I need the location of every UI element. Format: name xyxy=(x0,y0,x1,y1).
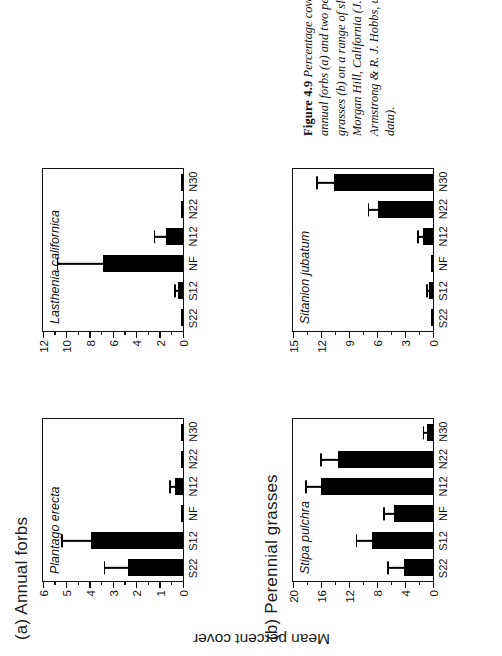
bar-zero-marker xyxy=(181,451,183,468)
y-tick-label: 3 xyxy=(400,340,412,346)
y-tick-major xyxy=(89,332,90,338)
x-axis: S22S12NFN12N22N30 xyxy=(187,418,199,582)
x-category-label: N12 xyxy=(437,473,449,500)
x-category-label: S12 xyxy=(187,527,199,554)
y-tick-label: 5 xyxy=(61,590,73,596)
bar-slot-n22 xyxy=(43,196,183,223)
y-tick-label: 16 xyxy=(316,590,328,603)
bar-slot-nf xyxy=(293,250,433,277)
chart-panel-sitanion-jubatum: Sitanion jubatum03691215S22S12NFN12N22N3… xyxy=(292,168,450,358)
bar xyxy=(404,559,433,576)
y-tick-minor xyxy=(101,582,102,585)
bar-slot-s22 xyxy=(293,304,433,331)
x-category-label: S22 xyxy=(437,555,449,582)
bar-zero-marker xyxy=(181,174,183,191)
x-category-label: S22 xyxy=(187,555,199,582)
x-category-label: NF xyxy=(437,500,449,527)
y-tick-minor xyxy=(124,332,125,335)
y-tick-label: 3 xyxy=(108,590,120,596)
y-tick-major xyxy=(89,582,90,588)
bar-slot-nf xyxy=(43,250,183,277)
y-tick-major xyxy=(349,332,350,338)
error-bar xyxy=(174,290,178,292)
y-tick-minor xyxy=(307,582,308,585)
y-tick-minor xyxy=(419,582,420,585)
error-bar xyxy=(169,486,175,488)
plot-area: Lasthenia californica xyxy=(42,168,184,332)
error-bar xyxy=(320,459,338,461)
error-bar xyxy=(383,513,394,515)
chart-panel-plantago-erecta: Plantago erecta0123456S22S12NFN12N22N30 xyxy=(42,418,200,608)
y-axis: 0123456 xyxy=(42,582,184,608)
y-tick-label: 12 xyxy=(344,590,356,603)
bar-zero-marker xyxy=(181,201,183,218)
plot-area: Stipa pulchra xyxy=(292,418,434,582)
x-category-label: N12 xyxy=(437,223,449,250)
y-tick-minor xyxy=(335,582,336,585)
bar-series xyxy=(293,419,433,581)
y-tick-label: 0 xyxy=(178,340,190,346)
y-tick-major xyxy=(43,332,44,338)
chart-panel-lasthenia-californica: Lasthenia californica024681012S22S12NFN1… xyxy=(42,168,200,358)
y-tick-minor xyxy=(419,332,420,335)
error-bar xyxy=(426,290,429,292)
x-category-label: N12 xyxy=(187,223,199,250)
y-tick-minor xyxy=(171,582,172,585)
bar xyxy=(338,451,433,468)
y-tick-major xyxy=(405,332,406,338)
y-tick-label: 15 xyxy=(288,340,300,353)
bar-zero-marker xyxy=(181,505,183,522)
y-tick-minor xyxy=(391,332,392,335)
x-axis: S22S12NFN12N22N30 xyxy=(437,418,449,582)
y-tick-label: 6 xyxy=(38,590,50,596)
x-category-label: S12 xyxy=(437,277,449,304)
y-tick-label: 12 xyxy=(38,340,50,353)
y-tick-major xyxy=(66,332,67,338)
error-bar xyxy=(104,567,128,569)
bar-series xyxy=(43,169,183,331)
bar xyxy=(321,478,433,495)
y-tick-label: 4 xyxy=(85,590,97,596)
plot-area: Sitanion jubatum xyxy=(292,168,434,332)
bar-zero-marker xyxy=(431,309,433,326)
y-tick-label: 6 xyxy=(372,340,384,346)
figure-number: Figure 4.9 xyxy=(301,81,315,136)
y-tick-minor xyxy=(101,332,102,335)
y-axis: 048121620 xyxy=(292,582,434,608)
y-tick-major xyxy=(159,582,160,588)
y-tick-major xyxy=(321,332,322,338)
figure-caption-text: Percentage cover of two annual forbs (a)… xyxy=(301,0,397,136)
y-tick-major xyxy=(113,582,114,588)
x-axis: S22S12NFN12N22N30 xyxy=(437,168,449,332)
bar xyxy=(128,559,183,576)
error-bar xyxy=(316,182,333,184)
bar-slot-s12 xyxy=(293,277,433,304)
x-category-label: NF xyxy=(187,250,199,277)
y-tick-label: 20 xyxy=(288,590,300,603)
y-tick-label: 8 xyxy=(372,590,384,596)
bar xyxy=(91,532,183,549)
bar-slot-n12 xyxy=(293,223,433,250)
bar-slot-n12 xyxy=(293,473,433,500)
y-tick-minor xyxy=(54,332,55,335)
x-category-label: N30 xyxy=(187,168,199,195)
y-tick-label: 2 xyxy=(131,590,143,596)
y-tick-label: 10 xyxy=(61,340,73,353)
x-category-label: N12 xyxy=(187,473,199,500)
y-tick-major xyxy=(113,332,114,338)
bar xyxy=(378,201,433,218)
bar-slot-nf xyxy=(43,500,183,527)
y-tick-major xyxy=(66,582,67,588)
x-category-label: S22 xyxy=(187,305,199,332)
bar-slot-n30 xyxy=(293,169,433,196)
bar-zero-marker xyxy=(181,424,183,441)
bar-slot-n22 xyxy=(293,196,433,223)
y-tick-major xyxy=(349,582,350,588)
x-category-label: NF xyxy=(187,500,199,527)
error-bar xyxy=(305,486,320,488)
y-tick-label: 12 xyxy=(316,340,328,353)
y-tick-label: 4 xyxy=(131,340,143,346)
x-category-label: N22 xyxy=(187,195,199,222)
y-axis-title: Mean percent cover xyxy=(193,630,330,648)
y-tick-minor xyxy=(148,332,149,335)
